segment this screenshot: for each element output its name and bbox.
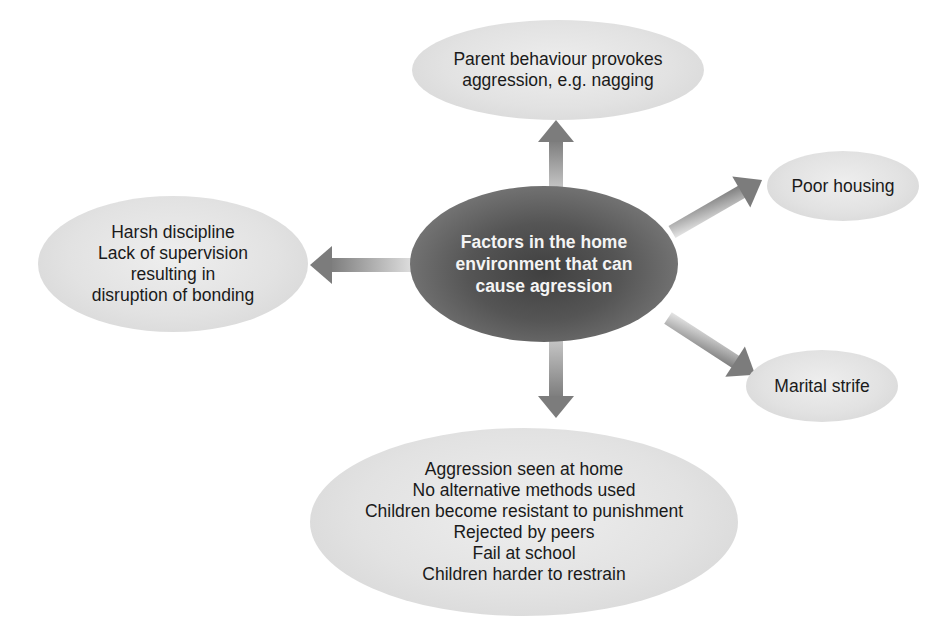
node-marital-strife: Marital strife [746,350,898,422]
node-marital-strife-text: Marital strife [774,376,869,397]
arrow-to-upper-right-icon [663,164,771,247]
node-poor-housing-text: Poor housing [791,176,894,197]
node-harsh-discipline-text: Harsh discipline Lack of supervision res… [92,222,254,306]
home-aggression-factors-diagram: Parent behaviour provokes aggression, e.… [0,0,950,628]
node-aggression-seen-at-home: Aggression seen at home No alternative m… [310,428,738,616]
node-parent-behaviour: Parent behaviour provokes aggression, e.… [412,20,704,120]
arrow-to-top-icon [538,120,574,190]
arrow-to-left-icon [310,246,414,284]
arrow-to-bottom-icon [538,338,574,418]
center-node-factors: Factors in the home environment that can… [410,186,678,342]
center-node-text: Factors in the home environment that can… [456,231,633,297]
node-harsh-discipline: Harsh discipline Lack of supervision res… [38,196,308,332]
node-poor-housing: Poor housing [767,151,919,221]
node-aggression-seen-at-home-text: Aggression seen at home No alternative m… [365,459,683,585]
node-parent-behaviour-text: Parent behaviour provokes aggression, e.… [453,49,662,91]
